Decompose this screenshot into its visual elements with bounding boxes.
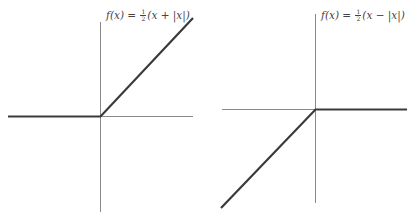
chart-left (8, 18, 193, 212)
left-label-fraction: 12 (140, 9, 146, 22)
right-function-label: f(x) = 12(x − |x|) (321, 9, 405, 22)
right-label-prefix: f(x) = (321, 9, 354, 21)
chart-right (221, 14, 407, 208)
charts-canvas (0, 0, 411, 220)
left-function-label: f(x) = 12(x + |x|) (106, 9, 190, 22)
left-label-suffix: (x + |x|) (147, 9, 190, 21)
right-label-fraction: 12 (355, 9, 361, 22)
right-curve (221, 110, 407, 209)
left-label-prefix: f(x) = (106, 9, 139, 21)
right-label-suffix: (x − |x|) (362, 9, 405, 21)
